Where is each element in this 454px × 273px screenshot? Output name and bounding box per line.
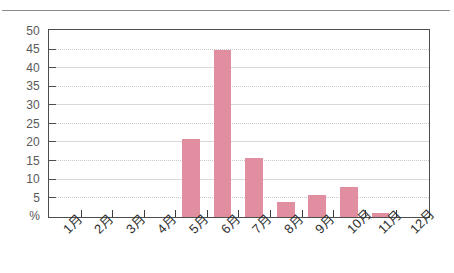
gridline	[49, 123, 429, 124]
x-axis-tick	[302, 210, 303, 217]
y-axis-tick	[49, 141, 56, 142]
x-axis-tick	[333, 210, 334, 217]
bar	[182, 139, 200, 217]
y-axis-tick	[49, 179, 56, 180]
y-axis-tick-label: 35	[12, 80, 40, 92]
y-axis-tick	[49, 160, 56, 161]
top-divider-rule	[2, 10, 450, 11]
y-axis-tick-label: 15	[12, 155, 40, 167]
y-axis-tick-label: 50	[12, 25, 40, 37]
bar	[214, 50, 232, 217]
plot-inner	[49, 30, 429, 217]
gridline	[49, 141, 429, 142]
x-axis-tick	[207, 210, 208, 217]
y-axis-tick-label: %	[12, 210, 40, 222]
x-axis-tick	[270, 210, 271, 217]
x-axis-tick	[144, 210, 145, 217]
x-axis-category-labels: 1月2月3月4月5月6月7月8月9月10月11月12月	[48, 220, 430, 273]
y-axis-tick	[49, 67, 56, 68]
bar	[340, 187, 358, 217]
y-axis-tick-label: 40	[12, 62, 40, 74]
y-axis-tick	[49, 123, 56, 124]
y-axis-tick	[49, 104, 56, 105]
x-axis-tick	[238, 210, 239, 217]
gridline	[49, 197, 429, 198]
y-axis-tick-label: 20	[12, 136, 40, 148]
gridline	[49, 67, 429, 68]
y-axis-tick-label: 25	[12, 118, 40, 130]
y-axis-tick	[49, 49, 56, 50]
y-axis-tick-label: 10	[12, 173, 40, 185]
y-axis-tick-label: 5	[12, 192, 40, 204]
plot-area	[48, 29, 430, 218]
chart-figure: %5101520253035404550 1月2月3月4月5月6月7月8月9月1…	[0, 0, 454, 273]
gridline	[49, 86, 429, 87]
gridline	[49, 49, 429, 50]
gridline	[49, 104, 429, 105]
y-axis-tick	[49, 86, 56, 87]
bar	[245, 158, 263, 217]
gridline	[49, 179, 429, 180]
gridline	[49, 160, 429, 161]
x-axis-tick	[81, 210, 82, 217]
y-axis-tick-label: 30	[12, 99, 40, 111]
y-axis-tick-label: 45	[12, 43, 40, 55]
y-axis-tick	[49, 197, 56, 198]
x-axis-tick	[112, 210, 113, 217]
x-axis-tick	[175, 210, 176, 217]
